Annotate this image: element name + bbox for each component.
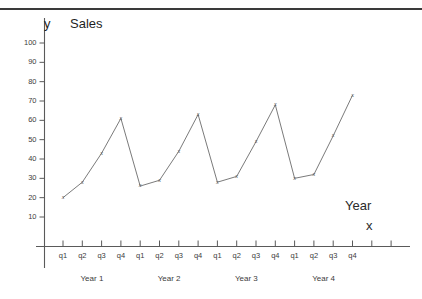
y-tick-label: 100 xyxy=(24,38,37,47)
data-point-marker: x xyxy=(119,115,123,121)
y-tick-label: 90 xyxy=(28,57,36,66)
sales-line-chart: 102030405060708090100 xxxxxxxxxxxxxxxx q… xyxy=(0,0,422,299)
y-tick-label: 60 xyxy=(28,115,36,124)
x-tick-label: q4 xyxy=(194,251,202,260)
x-axis-name: Year xyxy=(345,198,372,213)
x-tick-label: q2 xyxy=(310,251,318,260)
x-tick-label: q4 xyxy=(271,251,279,260)
y-tick-label: 30 xyxy=(28,173,36,182)
x-tick-label: q3 xyxy=(97,251,105,260)
data-point-marker: x xyxy=(312,171,316,177)
chart-title: Sales xyxy=(70,16,103,31)
x-axis-group-label: Year 3 xyxy=(235,274,258,283)
y-tick-label: 70 xyxy=(28,96,36,105)
x-axis-group-label: Year 4 xyxy=(312,274,335,283)
data-point-marker: x xyxy=(331,132,335,138)
x-axis-ticks xyxy=(63,241,391,247)
y-axis-ticks: 102030405060708090100 xyxy=(24,38,45,221)
data-point-marker: x xyxy=(350,92,354,98)
x-tick-label: q2 xyxy=(155,251,163,260)
y-axis-symbol: y xyxy=(44,16,51,31)
data-point-marker: x xyxy=(99,150,103,156)
x-tick-label: q1 xyxy=(213,251,221,260)
x-tick-label: q1 xyxy=(59,251,67,260)
data-point-marker: x xyxy=(254,138,258,144)
data-point-marker: x xyxy=(215,179,219,185)
x-axis-group-labels: Year 1Year 2Year 3Year 4 xyxy=(81,274,336,283)
x-axis-symbol: x xyxy=(366,218,373,233)
chart-page: 102030405060708090100 xxxxxxxxxxxxxxxx q… xyxy=(0,0,422,299)
y-tick-label: 80 xyxy=(28,77,36,86)
data-point-marker: x xyxy=(273,101,277,107)
x-tick-label: q3 xyxy=(329,251,337,260)
data-point-marker: x xyxy=(176,148,180,154)
x-tick-label: q3 xyxy=(252,251,260,260)
x-tick-label: q1 xyxy=(290,251,298,260)
data-point-marker: x xyxy=(157,177,161,183)
y-tick-label: 50 xyxy=(28,135,36,144)
x-tick-label: q2 xyxy=(233,251,241,260)
x-tick-label: q4 xyxy=(348,251,356,260)
data-point-marker: x xyxy=(234,173,238,179)
x-tick-label: q1 xyxy=(136,251,144,260)
data-point-marker: x xyxy=(138,182,142,188)
x-axis-tick-labels: q1q2q3q4q1q2q3q4q1q2q3q4q1q2q3q4 xyxy=(59,251,357,260)
y-tick-label: 40 xyxy=(28,154,36,163)
data-point-marker: x xyxy=(196,111,200,117)
x-axis-group-label: Year 2 xyxy=(158,274,181,283)
y-tick-label: 10 xyxy=(28,212,36,221)
y-tick-label: 20 xyxy=(28,193,36,202)
data-point-marker: x xyxy=(80,179,84,185)
x-tick-label: q2 xyxy=(78,251,86,260)
sales-series-line xyxy=(63,95,353,197)
data-point-marker: x xyxy=(61,194,65,200)
x-axis-group-label: Year 1 xyxy=(81,274,104,283)
x-tick-label: q3 xyxy=(175,251,183,260)
x-tick-label: q4 xyxy=(117,251,125,260)
data-point-marker: x xyxy=(292,175,296,181)
